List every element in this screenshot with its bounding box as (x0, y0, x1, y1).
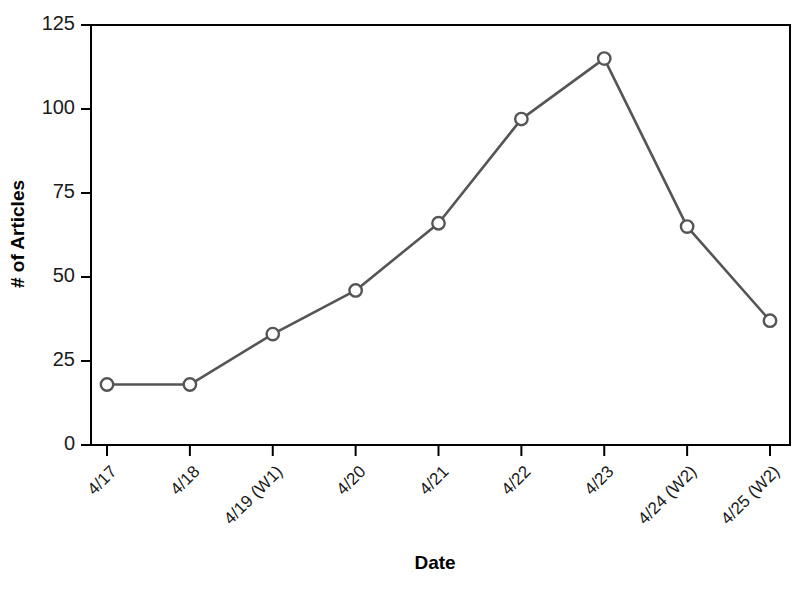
data-point-marker (515, 113, 527, 125)
y-tick-label: 50 (53, 264, 75, 287)
y-axis-title: # of Articles (7, 104, 29, 364)
y-tick-label: 0 (64, 432, 75, 455)
data-point-marker (101, 378, 113, 390)
y-tick-label: 75 (53, 180, 75, 203)
data-point-marker (267, 328, 279, 340)
data-point-marker (598, 52, 610, 64)
data-point-marker (184, 378, 196, 390)
y-tick-label: 100 (42, 96, 75, 119)
y-tick-label: 25 (53, 348, 75, 371)
data-point-markers (101, 52, 776, 390)
data-point-marker (432, 217, 444, 229)
y-tick-label: 125 (42, 12, 75, 35)
chart-figure: 0255075100125 4/174/184/19 (W1)4/204/214… (0, 0, 802, 595)
data-point-marker (764, 314, 776, 326)
x-axis-title: Date (285, 552, 585, 574)
data-point-marker (681, 220, 693, 232)
data-point-marker (349, 284, 361, 296)
axis-ticks (81, 25, 770, 456)
